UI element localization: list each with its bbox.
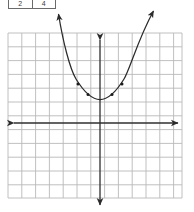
grid-lines <box>8 33 182 198</box>
parabola-curve-right <box>100 11 154 100</box>
coordinate-graph <box>0 0 194 212</box>
figure-canvas: 2 4 <box>0 0 194 212</box>
data-point <box>77 83 80 86</box>
data-point <box>121 83 124 86</box>
data-point <box>111 93 114 96</box>
parabola-curve-left <box>59 14 101 100</box>
data-point <box>87 93 90 96</box>
